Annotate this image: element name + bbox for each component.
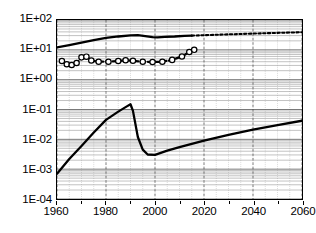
- x-axis-tick-label: 2020: [181, 205, 227, 217]
- x-axis-minor-tick-mark: [278, 201, 279, 204]
- x-axis-tick-label: 2040: [231, 205, 277, 217]
- x-axis-tick-mark: [56, 201, 57, 205]
- x-axis-tick-mark: [155, 201, 156, 205]
- log-line-chart: 1E+021E+011E+001E-011E-021E-031E-04 1960…: [0, 0, 316, 233]
- x-axis-minor-tick-mark: [180, 201, 181, 204]
- x-axis-minor-tick-mark: [229, 201, 230, 204]
- x-axis-minor-tick-mark: [81, 201, 82, 204]
- x-axis-tick-mark: [254, 201, 255, 205]
- x-axis-tick-label: 1980: [82, 205, 128, 217]
- x-axis-minor-tick-mark: [130, 201, 131, 204]
- x-axis-tick-label: 1960: [33, 205, 79, 217]
- x-axis-tick-labels: 196019802000202020402060: [0, 0, 316, 233]
- x-axis-tick-label: 2060: [280, 205, 316, 217]
- x-axis-tick-mark: [105, 201, 106, 205]
- x-axis-tick-mark: [303, 201, 304, 205]
- x-axis-tick-mark: [204, 201, 205, 205]
- x-axis-tick-label: 2000: [132, 205, 178, 217]
